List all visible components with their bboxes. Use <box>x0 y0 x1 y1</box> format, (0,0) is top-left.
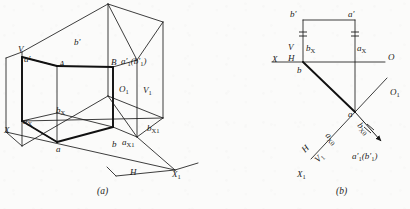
label-b-point-a: a <box>348 110 353 119</box>
label-a-point-a: a <box>56 145 61 154</box>
label-a-a-prime: a′ <box>24 55 30 64</box>
label-a-aX1: aX1 <box>122 138 134 147</box>
label-b-aX: aX <box>357 44 366 53</box>
label-a-bX: bX <box>56 106 65 115</box>
caption-panel-b: (b) <box>336 186 347 196</box>
label-b-V: V <box>288 43 294 52</box>
drawing-svg <box>0 0 410 209</box>
label-a-point-A: A <box>59 60 65 69</box>
label-b-a-prime: a′ <box>348 10 354 19</box>
label-b-O: O <box>388 53 395 62</box>
label-a-b-prime: b′ <box>74 38 80 47</box>
label-a-V1: V1 <box>143 86 152 95</box>
panel-b-thick-lines <box>303 62 355 112</box>
label-b-O1: O1 <box>390 88 400 97</box>
panel-a-thick-lines <box>22 57 113 142</box>
label-b-X: X <box>272 55 278 64</box>
label-a-V: V <box>18 45 24 54</box>
label-b-a1-b1-prime: a′1(b′1) <box>352 152 377 161</box>
label-b-b-prime: b′ <box>290 10 296 19</box>
caption-panel-a: (a) <box>97 186 108 196</box>
label-a-point-b: b <box>112 140 117 149</box>
label-a-X: X <box>4 126 10 135</box>
label-a-H: H <box>130 168 137 177</box>
label-b-X1: X1 <box>297 170 306 179</box>
panel-a-thin-lines <box>6 4 198 176</box>
label-a-aX: aX <box>23 117 32 126</box>
label-b-bX: bX <box>306 44 315 53</box>
label-a-O1: O1 <box>119 85 129 94</box>
label-a-a1-b1-prime: a′1(b′1) <box>121 57 146 66</box>
figure-canvas: V a′ b′ A B a′1(b′1) O1 V1 bX aX X a b a… <box>0 0 410 209</box>
label-b-point-b: b <box>297 66 302 75</box>
label-b-H: H <box>288 54 295 63</box>
label-a-X1: X1 <box>172 170 181 179</box>
label-a-bX1: bX1 <box>147 124 159 133</box>
label-a-point-B: B <box>111 58 117 67</box>
